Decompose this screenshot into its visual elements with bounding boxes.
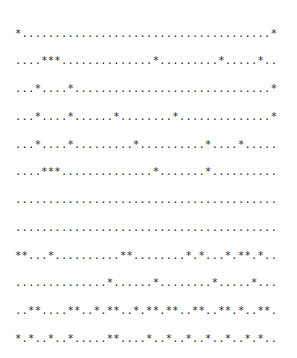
grid-row: ........................................ bbox=[15, 223, 277, 232]
grid-row: ...*....*..............................* bbox=[15, 84, 277, 93]
grid-row: **...*..........**........*.*...*.**.*.. bbox=[15, 251, 277, 260]
grid-row: ..............*......*........*.....*... bbox=[15, 278, 277, 287]
grid-row: *.*..*..*.....**....*..*..*..*..*..*.*.. bbox=[15, 334, 277, 343]
grid-row: ...*....*.........*..........*....*..... bbox=[15, 140, 277, 149]
grid-row: ..**....**..*.**..*.**.**..**..**.*..**. bbox=[15, 306, 277, 315]
grid-row: ....***..............*.........*.....*.. bbox=[15, 56, 277, 65]
star-dot-grid: *......................................*… bbox=[15, 10, 277, 358]
grid-row: ...*....*......*........*..............* bbox=[15, 112, 277, 121]
grid-row: ....***..............*.......*.......... bbox=[15, 167, 277, 176]
grid-row: *......................................* bbox=[15, 29, 277, 38]
grid-row: ........................................ bbox=[15, 195, 277, 204]
